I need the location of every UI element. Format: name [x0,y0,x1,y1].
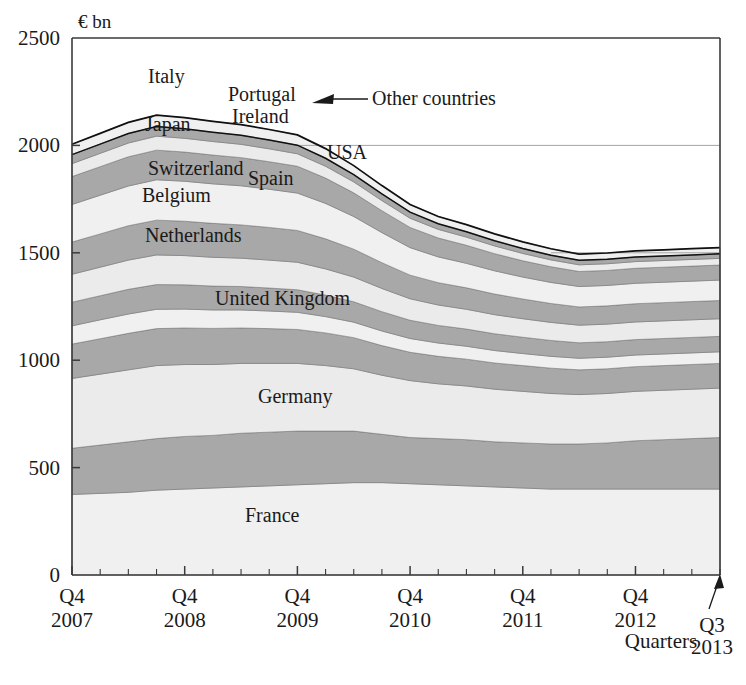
band-label-japan: Japan [145,113,191,136]
band-label-switzerland: Switzerland [148,157,244,179]
x-label-quarter-2011: Q4 [510,584,536,608]
x-label-quarter-2008: Q4 [172,584,198,608]
other-countries-label: Other countries [372,87,496,109]
x-label-year-2009: 2009 [276,608,318,632]
x-axis-title: Quarters [625,629,697,653]
x-label-quarter-2009: Q4 [285,584,311,608]
x-label-quarter-2012: Q4 [623,584,649,608]
x-label-quarter-2010: Q4 [397,584,423,608]
stacked-area-chart: 05001000150020002500 Q42007Q42008Q42009Q… [0,0,746,685]
y-tick-label-500: 500 [29,456,61,480]
end-year-label: 2013 [691,635,733,659]
band-label-portugal: Portugal [228,83,296,106]
y-tick-label-1500: 1500 [18,241,60,265]
y-tick-label-1000: 1000 [18,348,60,372]
other-countries-annotation: Other countries [312,87,496,109]
band-label-belgium: Belgium [142,184,211,207]
y-axis-unit-label: € bn [78,11,112,32]
band-label-usa: USA [327,141,368,163]
band-label-netherlands: Netherlands [145,224,242,246]
band-label-ireland: Ireland [232,105,289,127]
band-label-spain: Spain [248,167,294,190]
end-quarter-label: Q3 [699,613,725,637]
x-label-year-2008: 2008 [164,608,206,632]
y-tick-label-2000: 2000 [18,133,60,157]
other-countries-arrow-head [312,94,334,104]
x-label-year-2010: 2010 [389,608,431,632]
y-tick-label-2500: 2500 [18,26,60,50]
x-label-quarter-2007: Q4 [59,584,85,608]
end-arrow-head [714,574,724,589]
y-axis-tick-labels: 05001000150020002500 [18,26,60,587]
x-label-year-2007: 2007 [51,608,93,632]
x-axis-tick-labels: Q42007Q42008Q42009Q42010Q42011Q42012 [51,584,656,632]
band-label-italy: Italy [148,65,185,88]
chart-root: 05001000150020002500 Q42007Q42008Q42009Q… [0,0,746,685]
band-label-france: France [245,504,300,526]
end-quarter-annotation: Q3 2013 [691,574,733,659]
band-label-united-kingdom: United Kingdom [215,287,350,310]
area-band-france [72,483,720,575]
band-label-germany: Germany [258,385,332,408]
x-label-year-2011: 2011 [502,608,543,632]
